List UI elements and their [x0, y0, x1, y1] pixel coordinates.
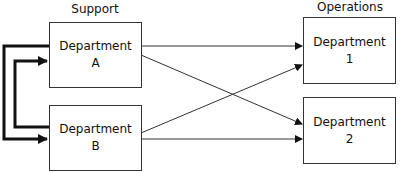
- node-label: 2: [346, 131, 354, 148]
- node-label: Department: [59, 121, 132, 138]
- a-to-2-arrow: [141, 55, 302, 124]
- node-label: Department: [313, 114, 386, 131]
- department-2-node: Department 2: [303, 97, 396, 164]
- node-label: Department: [59, 38, 132, 55]
- b-to-a-arrow: [15, 61, 49, 127]
- department-b-node: Department B: [49, 105, 142, 171]
- node-label: A: [91, 55, 99, 72]
- b-to-1-arrow: [141, 65, 302, 133]
- node-label: 1: [346, 51, 354, 68]
- department-1-node: Department 1: [303, 17, 396, 84]
- node-label: Department: [313, 34, 386, 51]
- node-label: B: [91, 138, 99, 155]
- department-a-node: Department A: [49, 22, 142, 88]
